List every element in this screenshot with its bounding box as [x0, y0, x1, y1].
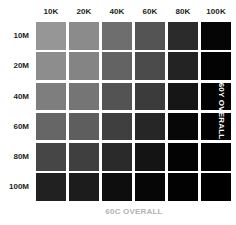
column-header: 100K — [201, 5, 231, 19]
swatch-cell — [102, 113, 132, 141]
swatch-cell — [135, 83, 165, 111]
swatch-row — [36, 113, 232, 141]
swatch-cell — [135, 143, 165, 171]
row-label: 100M — [0, 173, 33, 201]
swatch-cell — [201, 22, 231, 50]
swatch-cell — [168, 113, 198, 141]
ink-density-swatch-chart: 10K 20K 40K 60K 80K 100K 10M 20M 40M 60M… — [0, 0, 236, 225]
swatch-cell — [168, 143, 198, 171]
column-header: 10K — [36, 5, 66, 19]
swatch-cell — [168, 83, 198, 111]
swatch-cell — [201, 143, 231, 171]
swatch-cell — [135, 52, 165, 80]
swatch-cell — [36, 173, 66, 201]
right-axis-caption-wrap: 60Y OVERALL — [214, 76, 228, 146]
row-label: 80M — [0, 143, 33, 171]
swatch-cell — [36, 22, 66, 50]
right-axis-caption: 60Y OVERALL — [217, 83, 226, 140]
swatch-cell — [135, 173, 165, 201]
swatch-row — [36, 173, 232, 201]
column-header: 60K — [135, 5, 165, 19]
swatch-cell — [69, 113, 99, 141]
swatch-cell — [69, 52, 99, 80]
row-label: 10M — [0, 22, 33, 50]
swatch-cell — [102, 22, 132, 50]
swatch-cell — [69, 173, 99, 201]
column-header: 80K — [168, 5, 198, 19]
row-label: 20M — [0, 52, 33, 80]
swatch-cell — [36, 52, 66, 80]
swatch-cell — [102, 83, 132, 111]
swatch-cell — [168, 52, 198, 80]
swatch-row — [36, 22, 232, 50]
row-label: 40M — [0, 83, 33, 111]
swatch-cell — [69, 22, 99, 50]
swatch-cell — [168, 22, 198, 50]
swatch-cell — [135, 22, 165, 50]
swatch-cell — [36, 83, 66, 111]
swatch-row — [36, 143, 232, 171]
swatch-cell — [102, 52, 132, 80]
row-label: 60M — [0, 113, 33, 141]
bottom-axis-caption: 60C OVERALL — [36, 207, 232, 216]
swatch-cell — [102, 173, 132, 201]
column-header: 40K — [102, 5, 132, 19]
swatch-row — [36, 52, 232, 80]
swatch-cell — [36, 143, 66, 171]
row-label-column: 10M 20M 40M 60M 80M 100M — [0, 22, 33, 204]
swatch-row — [36, 83, 232, 111]
column-header-row: 10K 20K 40K 60K 80K 100K — [36, 5, 232, 19]
swatch-cell — [201, 173, 231, 201]
swatch-grid — [36, 22, 232, 204]
swatch-cell — [168, 173, 198, 201]
swatch-cell — [36, 113, 66, 141]
swatch-cell — [69, 83, 99, 111]
swatch-cell — [102, 143, 132, 171]
swatch-cell — [69, 143, 99, 171]
column-header: 20K — [69, 5, 99, 19]
swatch-cell — [135, 113, 165, 141]
